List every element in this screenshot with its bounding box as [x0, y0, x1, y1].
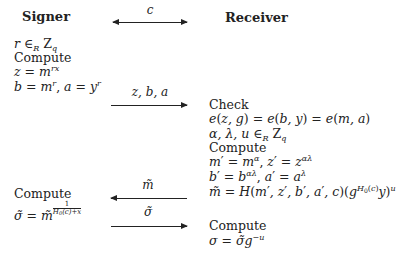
receiver-step-compute-2: Compute	[209, 219, 266, 233]
bidirectional-arrow	[113, 22, 187, 23]
receiver-step-sigma: σ = σ̃g−u	[209, 234, 264, 248]
arrow-label-m-tilde: m̃	[108, 178, 188, 192]
signer-step-z: z = mrx	[14, 65, 59, 79]
signer-step-b-a: b = mr, a = yr	[14, 80, 101, 94]
receiver-step-pairing: e(z, g) = e(b, y) = e(m, a)	[209, 112, 370, 126]
receiver-header: Receiver	[225, 11, 288, 25]
arrow-zba	[111, 105, 187, 106]
receiver-step-m-tilde: m̃ = H(m′, z′, b′, a′, c)(gH0(c)y)u	[209, 185, 396, 199]
signer-step-sigma-tilde: σ̃ = m̃1H0(c)+x	[14, 201, 81, 223]
receiver-step-b-a-prime: b′ = bαλ, a′ = aλ	[209, 170, 306, 184]
arrow-m-tilde	[111, 198, 187, 199]
arrow-label-zba: z, b, a	[110, 85, 190, 99]
signer-step-random: r ∈R Zq	[14, 37, 57, 51]
arrow-label-c: c	[110, 3, 190, 17]
signer-step-compute-2: Compute	[14, 187, 71, 201]
arrow-label-sigma-tilde: σ̃	[108, 205, 188, 219]
receiver-step-random: α, λ, u ∈R Zq	[209, 127, 286, 141]
arrow-sigma-tilde	[111, 226, 187, 227]
receiver-step-check: Check	[209, 98, 249, 112]
receiver-step-m-z-prime: m′ = mα, z′ = zαλ	[209, 155, 312, 169]
receiver-step-compute: Compute	[209, 141, 266, 155]
signer-header: Signer	[22, 10, 70, 24]
signer-step-compute: Compute	[14, 51, 71, 65]
